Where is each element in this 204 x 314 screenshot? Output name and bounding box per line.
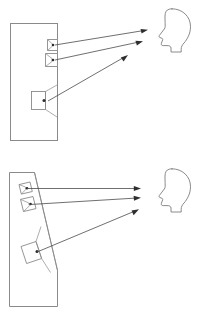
midrange-dome-icon	[29, 203, 32, 206]
speaker-enclosure-sloped	[10, 173, 58, 307]
diagram-root: Loudspeaker baffle alignment comparison …	[0, 0, 204, 314]
ray-woofer-bottom	[37, 209, 139, 252]
arrowhead-icon	[134, 186, 141, 191]
sound-rays-top	[48, 29, 148, 101]
ray-midrange-bottom	[30, 196, 141, 205]
arrowhead-icon	[121, 55, 128, 61]
ray-woofer-top	[48, 55, 128, 101]
arrowhead-icon	[134, 196, 141, 201]
arrowhead-icon	[141, 29, 149, 34]
flat-baffle-panel	[11, 9, 191, 141]
arrowhead-icon	[132, 209, 140, 215]
tweeter-dome-icon	[52, 44, 55, 47]
speaker-alignment-figure	[0, 0, 204, 314]
ray-midrange-top	[55, 41, 143, 60]
listener-head-bottom	[159, 169, 190, 212]
tweeter-driver-bottom	[19, 182, 32, 194]
ray-tweeter-bottom	[27, 186, 141, 191]
sloped-baffle-panel	[10, 169, 191, 307]
listener-head-top	[159, 9, 190, 52]
woofer-dustcap-icon	[43, 99, 46, 102]
ray-tweeter-top	[55, 29, 148, 45]
midrange-dome-icon	[52, 59, 55, 62]
arrowhead-icon	[135, 41, 143, 46]
